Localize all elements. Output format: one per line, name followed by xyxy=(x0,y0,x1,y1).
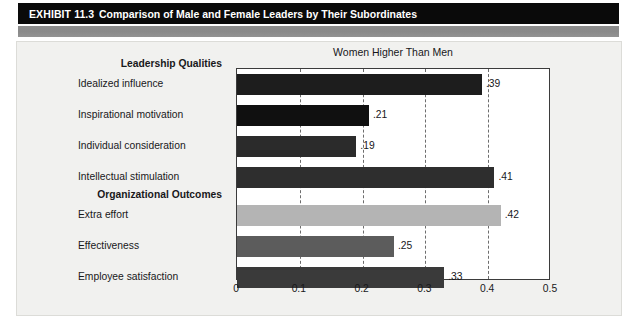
category-label-intellectual-stimulation: Intellectual stimulation xyxy=(46,171,232,182)
category-label-employee-satisfaction: Employee satisfaction xyxy=(46,271,232,282)
bar-value-effectiveness: .25 xyxy=(398,240,412,251)
bar-idealized-influence xyxy=(237,74,482,95)
exhibit-figure-page: EXHIBIT 11.3 Comparison of Male and Fema… xyxy=(0,0,637,322)
bar-value-idealized-influence: .39 xyxy=(486,78,500,89)
x-tick-0.3: 0.3 xyxy=(417,283,431,294)
exhibit-title: Comparison of Male and Female Leaders by… xyxy=(99,8,417,20)
category-label-inspirational-motivation: Inspirational motivation xyxy=(46,109,232,120)
bar-inspirational-motivation xyxy=(237,105,369,126)
header-accent-band xyxy=(18,26,619,37)
chart-title: Women Higher Than Men xyxy=(236,46,550,58)
bar-value-employee-satisfaction: .33 xyxy=(448,271,462,282)
category-label-idealized-influence: Idealized influence xyxy=(46,78,232,89)
group-header-leadership-qualities: Leadership Qualities xyxy=(46,58,232,69)
exhibit-label: EXHIBIT xyxy=(29,8,71,20)
exhibit-number: 11.3 xyxy=(74,8,94,20)
bar-value-intellectual-stimulation: .41 xyxy=(498,171,512,182)
category-label-column: Leadership Qualities Idealized influence… xyxy=(46,58,232,283)
bar-value-individual-consideration: .19 xyxy=(360,140,374,151)
bar-extra-effort xyxy=(237,205,501,226)
exhibit-header-bar: EXHIBIT 11.3 Comparison of Male and Fema… xyxy=(18,3,619,24)
bar-intellectual-stimulation xyxy=(237,167,494,188)
x-tick-0: 0 xyxy=(233,283,239,294)
bar-value-inspirational-motivation: .21 xyxy=(373,109,387,120)
category-label-individual-consideration: Individual consideration xyxy=(46,140,232,151)
x-tick-0.1: 0.1 xyxy=(292,283,306,294)
bar-individual-consideration xyxy=(237,136,356,157)
x-tick-0.2: 0.2 xyxy=(354,283,368,294)
category-label-extra-effort: Extra effort xyxy=(46,209,232,220)
bar-value-extra-effort: .42 xyxy=(505,209,519,220)
x-tick-0.4: 0.4 xyxy=(480,283,494,294)
group-header-organizational-outcomes: Organizational Outcomes xyxy=(46,189,232,200)
x-tick-0.5: 0.5 xyxy=(543,283,557,294)
bar-effectiveness xyxy=(237,236,394,257)
x-axis-tick-labels: 00.10.20.30.40.5 xyxy=(236,283,550,299)
category-label-effectiveness: Effectiveness xyxy=(46,240,232,251)
